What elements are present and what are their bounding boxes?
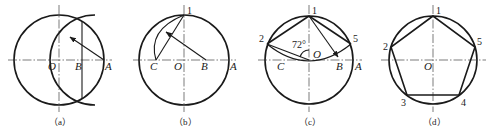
label-4: 4 [461, 97, 466, 108]
caption-d: （d） [423, 117, 446, 127]
label-b: B [201, 60, 208, 72]
label-c: C [150, 60, 158, 72]
label-5: 5 [353, 33, 358, 44]
label-2: 2 [383, 41, 388, 52]
label-1: 1 [187, 5, 192, 16]
caption-a: （a） [49, 117, 71, 127]
caption-c: （c） [299, 117, 321, 127]
radius-arrow [166, 32, 206, 60]
label-a: A [104, 60, 112, 72]
label-1: 1 [436, 5, 441, 16]
label-b: B [336, 60, 343, 72]
panel-d: 1 2 3 4 5 O （d） [381, 5, 486, 127]
label-2: 2 [259, 33, 264, 44]
label-o: O [174, 60, 182, 72]
angle-arc [300, 50, 309, 57]
label-c: C [277, 60, 285, 72]
label-5: 5 [477, 36, 482, 47]
label-o: O [424, 60, 432, 72]
label-angle: 72° [292, 39, 306, 50]
label-o: O [48, 60, 56, 72]
label-1: 1 [312, 5, 317, 16]
label-a: A [229, 60, 237, 72]
pentagon-construction-figure: O B A （a） 1 C O B A （b） 1 2 5 72° O [0, 0, 492, 135]
panel-b: 1 C O B A （b） [133, 5, 237, 127]
label-o: O [313, 48, 321, 60]
label-a: A [354, 60, 362, 72]
panel-a: O B A （a） [8, 5, 112, 127]
label-3: 3 [401, 97, 406, 108]
panel-c: 1 2 5 72° O C B A （c） [258, 5, 362, 127]
caption-b: （b） [174, 117, 197, 127]
label-b: B [75, 60, 82, 72]
side-1-5 [309, 16, 351, 44]
